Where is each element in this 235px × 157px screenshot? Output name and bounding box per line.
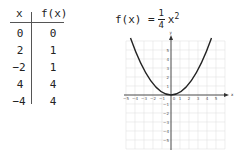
parabola-graph: x y −5−4−3 −2−10 123 45 543 21 −1−2−3 −4… [0,0,235,157]
svg-text:5: 5 [215,96,218,101]
svg-text:−4: −4 [163,129,169,134]
svg-text:−1: −1 [163,102,169,107]
svg-text:−2: −2 [163,111,169,116]
x-tick-labels: −5−4−3 −2−10 123 45 [123,96,218,101]
svg-text:−1: −1 [159,96,165,101]
svg-text:1: 1 [179,96,182,101]
svg-text:−4: −4 [132,96,138,101]
svg-text:−3: −3 [141,96,147,101]
svg-text:2: 2 [188,96,191,101]
svg-text:−2: −2 [150,96,156,101]
y-axis-label: y [170,30,173,35]
x-axis-arrow-icon [224,93,229,97]
svg-text:3: 3 [197,96,200,101]
x-axis-label: x [231,92,234,97]
svg-text:−5: −5 [163,138,169,143]
svg-text:4: 4 [206,96,209,101]
svg-text:−5: −5 [123,96,129,101]
svg-text:−3: −3 [163,120,169,125]
y-axis-arrow-icon [169,35,173,40]
svg-text:0: 0 [173,96,176,101]
